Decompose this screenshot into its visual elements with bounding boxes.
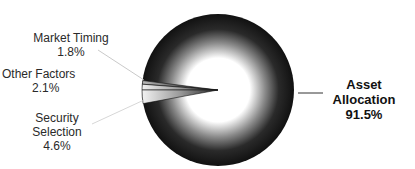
label-other-factors-name: Other Factors (2, 67, 82, 81)
label-security-selection-name-1: Security (27, 111, 87, 125)
label-security-selection-name-2: Selection (27, 125, 87, 139)
label-other-factors-value: 2.1% (2, 81, 82, 95)
label-security-selection-value: 4.6% (27, 139, 87, 153)
label-other-factors: Other Factors 2.1% (2, 67, 82, 95)
label-asset-allocation-value: 91.5% (314, 107, 414, 122)
label-market-timing-name: Market Timing (26, 31, 116, 45)
label-market-timing: Market Timing 1.8% (26, 31, 116, 59)
leader-line-security-selection (92, 100, 144, 124)
label-asset-allocation-name: Asset Allocation (314, 77, 414, 107)
label-market-timing-value: 1.8% (26, 45, 116, 59)
label-asset-allocation: Asset Allocation 91.5% (314, 77, 414, 122)
label-security-selection: Security Selection 4.6% (27, 111, 87, 153)
